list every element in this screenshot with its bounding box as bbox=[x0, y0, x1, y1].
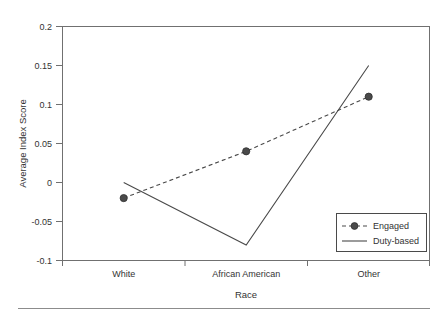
x-category-label-other: Other bbox=[357, 269, 380, 279]
y-tick-label-1: 0.15 bbox=[34, 61, 52, 71]
y-axis-title: Average Index Score bbox=[17, 99, 28, 188]
y-tick-label-5: -0.05 bbox=[31, 217, 52, 227]
y-axis-ticks bbox=[56, 27, 63, 261]
data-point-engaged-other bbox=[365, 93, 372, 100]
x-axis-ticks bbox=[63, 261, 430, 267]
y-tick-label-3: 0.05 bbox=[34, 139, 52, 149]
y-tick-label-4: 0 bbox=[47, 178, 52, 188]
data-point-engaged-african-american bbox=[243, 148, 250, 155]
bottom-horizontal-rule bbox=[18, 308, 430, 309]
x-axis-title: Race bbox=[235, 289, 257, 300]
y-tick-label-2: 0.1 bbox=[39, 100, 52, 110]
y-tick-label-6: -0.1 bbox=[36, 256, 52, 266]
x-category-label-white: White bbox=[112, 269, 135, 279]
y-tick-label-0: 0.2 bbox=[39, 22, 52, 32]
legend: Engaged Duty-based bbox=[337, 214, 427, 252]
legend-label-duty-based: Duty-based bbox=[373, 236, 419, 246]
legend-label-engaged: Engaged bbox=[373, 221, 409, 231]
x-category-label-african-american: African American bbox=[212, 269, 280, 279]
figure-container: 0.2 0.15 0.1 0.05 0 -0.05 -0.1 Average I… bbox=[0, 0, 446, 317]
data-point-engaged-white bbox=[120, 195, 127, 202]
legend-swatch-engaged-marker bbox=[351, 223, 358, 230]
line-chart: 0.2 0.15 0.1 0.05 0 -0.05 -0.1 Average I… bbox=[0, 0, 446, 317]
